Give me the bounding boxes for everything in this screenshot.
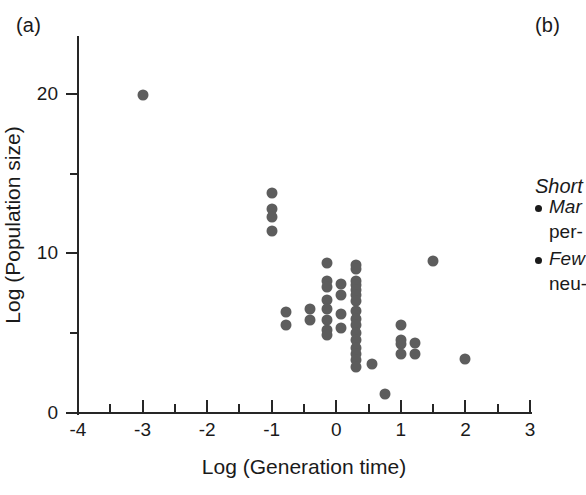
data-point — [395, 348, 406, 359]
data-point — [266, 226, 277, 237]
x-tick-label: 2 — [460, 419, 471, 441]
data-point — [395, 320, 406, 331]
data-point — [266, 187, 277, 198]
x-tick-label: 3 — [525, 419, 536, 441]
x-tick-label: 0 — [331, 419, 342, 441]
plot-area — [78, 38, 530, 413]
bullet-2-line-1: Few — [549, 248, 585, 270]
data-point — [321, 304, 332, 315]
data-point — [336, 323, 347, 334]
panel-b-text-block: Short Mar per- Few neu- — [535, 0, 586, 495]
x-axis-title: Log (Generation time) — [202, 455, 406, 479]
bullet-1-line-2: per- — [549, 221, 583, 243]
data-point — [336, 289, 347, 300]
x-tick-label: -1 — [263, 419, 280, 441]
data-point — [350, 264, 361, 275]
bullet-1-line-1: Mar — [549, 196, 582, 218]
data-point — [321, 281, 332, 292]
panel-b-heading: Short — [535, 175, 583, 198]
data-point — [460, 353, 471, 364]
x-tick-label: -4 — [70, 419, 87, 441]
data-point — [336, 309, 347, 320]
y-tick-label: 10 — [37, 242, 58, 264]
y-axis-title: Log (Population size) — [1, 126, 25, 323]
x-tick-label: -2 — [199, 419, 216, 441]
x-tick-label: -3 — [134, 419, 151, 441]
bullet-2-line-2: neu- — [549, 273, 586, 295]
data-point — [280, 320, 291, 331]
bullet-dot-icon — [535, 205, 542, 212]
data-point — [321, 258, 332, 269]
data-point — [366, 358, 377, 369]
data-point — [379, 388, 390, 399]
data-point — [336, 278, 347, 289]
data-point — [410, 337, 421, 348]
y-tick-label: 20 — [37, 83, 58, 105]
data-point — [305, 304, 316, 315]
data-point — [428, 256, 439, 267]
x-tick-label: 1 — [396, 419, 407, 441]
panel-a-label: (a) — [16, 14, 41, 37]
data-point — [266, 211, 277, 222]
data-point — [321, 329, 332, 340]
figure-container: (a) (b) -4-3-2-10123 01020 Log (Generati… — [0, 0, 586, 495]
data-point — [280, 307, 291, 318]
data-point — [410, 348, 421, 359]
data-point — [350, 361, 361, 372]
bullet-dot-icon — [535, 257, 542, 264]
y-tick-label: 0 — [47, 402, 58, 424]
data-point — [137, 90, 148, 101]
data-point — [305, 315, 316, 326]
